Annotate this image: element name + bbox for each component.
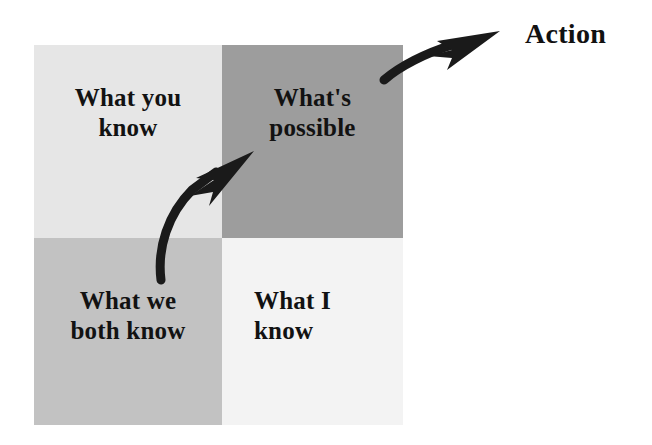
quadrant-what-we-both-know-label: What we both know [34, 286, 222, 346]
quadrant-what-you-know-label: What you know [34, 83, 222, 143]
quadrant-what-i-know-line2: know [254, 317, 313, 344]
quadrant-what-we-both-know[interactable]: What we both know [34, 238, 222, 425]
quadrant-what-i-know-line1: What I [254, 287, 331, 314]
quadrant-what-you-know-line1: What you [75, 84, 181, 111]
quadrant-what-you-know-line2: know [98, 114, 157, 141]
quadrant-what-i-know-label: What I know [222, 286, 403, 346]
quadrant-what-i-know[interactable]: What I know [222, 238, 403, 425]
quadrant-whats-possible-label: What's possible [222, 83, 403, 143]
diagram-canvas: What you know What's possible What we bo… [0, 0, 652, 445]
quadrant-whats-possible[interactable]: What's possible [222, 45, 403, 238]
quadrant-what-you-know[interactable]: What you know [34, 45, 222, 238]
quadrant-what-we-both-know-line1: What we [80, 287, 177, 314]
knowledge-matrix: What you know What's possible What we bo… [34, 45, 403, 425]
quadrant-whats-possible-line2: possible [269, 114, 355, 141]
quadrant-whats-possible-line1: What's [274, 84, 352, 111]
quadrant-what-we-both-know-line2: both know [70, 317, 185, 344]
action-label: Action [525, 18, 606, 50]
